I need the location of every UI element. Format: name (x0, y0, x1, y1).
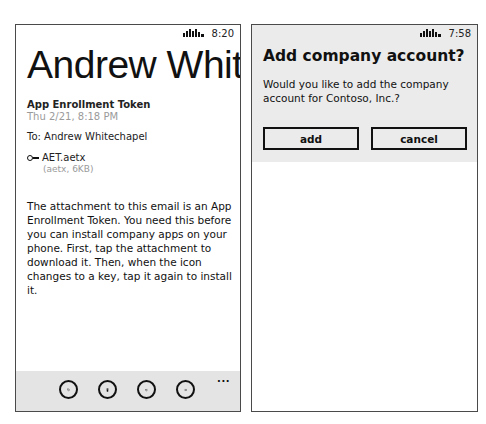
status-time: 7:58 (449, 28, 471, 39)
phone-screen-dialog: 7:58 Add company account? Would you like… (251, 24, 478, 412)
signal-strength-icon (420, 29, 441, 37)
delete-button[interactable] (98, 380, 117, 399)
reply-button[interactable] (59, 380, 78, 399)
next-button[interactable] (176, 380, 195, 399)
more-options-icon[interactable]: ... (217, 373, 230, 384)
dialog-message: Would you like to add the company accoun… (263, 77, 468, 105)
email-recipient: To: Andrew Whitechapel (27, 131, 147, 142)
email-body: The attachment to this email is an App E… (27, 199, 232, 297)
add-button[interactable]: add (263, 127, 359, 150)
email-sender-title: Andrew Whitechapel (27, 43, 241, 87)
status-time: 8:20 (212, 28, 234, 39)
previous-button[interactable] (137, 380, 156, 399)
reply-icon (67, 384, 70, 395)
cancel-button[interactable]: cancel (371, 127, 467, 150)
trash-icon (106, 385, 109, 395)
add-account-dialog: 7:58 Add company account? Would you like… (252, 25, 477, 162)
arrow-right-icon (184, 385, 187, 395)
phone-screen-email: 8:20 Andrew Whitechapel App Enrollment T… (15, 24, 241, 412)
app-bar: ... (16, 371, 240, 411)
signal-strength-icon (183, 29, 204, 37)
status-bar: 7:58 (420, 25, 477, 41)
status-bar: 8:20 (183, 25, 240, 41)
attachment-name: AET.aetx (42, 152, 85, 163)
arrow-left-icon (145, 385, 148, 395)
key-icon (27, 155, 39, 161)
attachment-meta: (aetx, 6KB) (43, 164, 93, 174)
email-subject: App Enrollment Token (27, 99, 150, 110)
attachment-item[interactable]: AET.aetx (aetx, 6KB) (27, 152, 93, 174)
email-date: Thu 2/21, 8:18 PM (27, 111, 118, 122)
dialog-title: Add company account? (263, 47, 465, 65)
